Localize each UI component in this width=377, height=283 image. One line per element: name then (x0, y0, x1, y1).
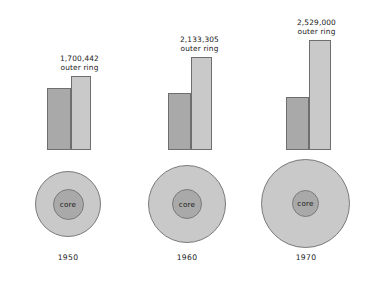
bar-outer-ring-1960 (191, 57, 212, 150)
circle-core-label-1950: core (60, 200, 76, 209)
bar-core-1960 (168, 93, 191, 150)
bar-label-outer-ring-1970: 2,529,000 outer ring (297, 18, 336, 36)
bar-core-1970 (286, 97, 309, 150)
bar-series-outer-ring-1960: outer ring (180, 44, 219, 53)
circle-group-1960: core 1960 (119, 165, 255, 283)
circle-core-1960: core (172, 189, 202, 219)
circle-group-1950: core 1950 (0, 165, 136, 283)
bar-label-outer-ring-1960: 2,133,305 outer ring (180, 35, 219, 53)
bar-value-outer-ring-1950: 1,700,442 (60, 54, 99, 63)
year-label-1970: 1970 (238, 253, 374, 262)
population-core-outer-ring-figure: 1,430,876 core 1,700,442 outer ring 1,30… (0, 0, 377, 283)
bar-outer-ring-1950 (71, 76, 91, 150)
bar-series-outer-ring-1950: outer ring (60, 63, 99, 72)
bar-outer-ring-1970 (309, 40, 331, 150)
year-label-1950: 1950 (0, 253, 136, 262)
circle-group-1970: core 1970 (238, 165, 374, 283)
year-label-1960: 1960 (119, 253, 255, 262)
circle-core-1950: core (53, 189, 84, 220)
bar-core-1950 (47, 88, 71, 150)
circle-core-label-1960: core (179, 200, 195, 209)
circle-core-1970: core (292, 190, 319, 217)
bar-value-outer-ring-1970: 2,529,000 (297, 18, 336, 27)
bar-value-outer-ring-1960: 2,133,305 (180, 35, 219, 44)
bar-series-outer-ring-1970: outer ring (297, 27, 336, 36)
circle-core-label-1970: core (297, 199, 313, 208)
bar-label-outer-ring-1950: 1,700,442 outer ring (60, 54, 99, 72)
